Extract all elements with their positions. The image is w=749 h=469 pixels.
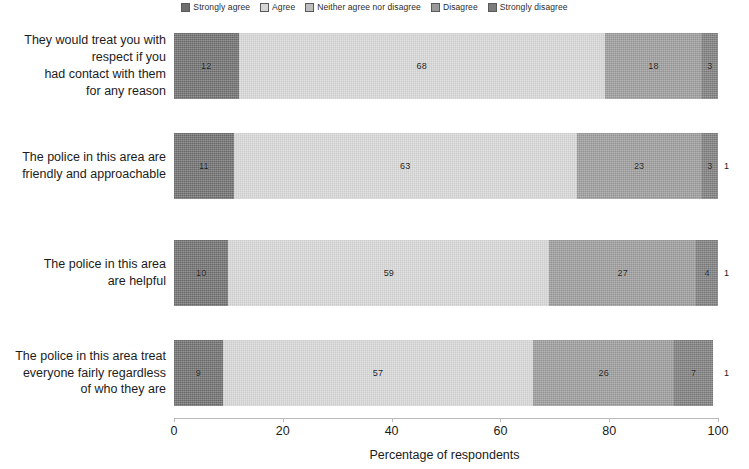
x-axis-tick-label: 60 xyxy=(493,424,507,438)
x-axis-title: Percentage of respondents xyxy=(0,448,749,462)
bar-segment: 63 xyxy=(234,133,577,199)
x-axis-tick-label: 80 xyxy=(602,424,616,438)
category-label-line: The police in this area are xyxy=(0,149,166,166)
stacked-bar-chart: Strongly agreeAgreeNeither agree nor dis… xyxy=(0,0,749,469)
bar-segment-value: 4 xyxy=(704,268,709,278)
x-axis-tick-label: 20 xyxy=(276,424,290,438)
legend-item: Strongly agree xyxy=(181,2,250,12)
bar-segment: 23 xyxy=(577,133,702,199)
x-axis-tick-label: 40 xyxy=(385,424,399,438)
bar-trailing-value: 1 xyxy=(724,268,729,278)
category-label: The police in this area arefriendly and … xyxy=(0,149,166,183)
bar-segment: 59 xyxy=(228,240,549,306)
category-label-line: of who they are xyxy=(0,381,166,398)
category-label-line: friendly and approachable xyxy=(0,166,166,183)
bar-segment-value: 27 xyxy=(618,268,628,278)
category-label: The police in this areaare helpful xyxy=(0,256,166,290)
x-axis-tick xyxy=(500,418,501,422)
bar-trailing-value: 1 xyxy=(724,161,729,171)
bar-segment-value: 26 xyxy=(599,368,609,378)
bar-segment: 10 xyxy=(174,240,228,306)
x-axis-tick xyxy=(609,418,610,422)
category-label-line: for any reason xyxy=(0,83,166,100)
bar-segment: 11 xyxy=(174,133,234,199)
bar-segment-value: 57 xyxy=(373,368,383,378)
bar-segment: 68 xyxy=(239,33,605,99)
x-axis-tick-label: 100 xyxy=(708,424,729,438)
bar-segment-value: 7 xyxy=(691,368,696,378)
category-label-line: had contact with them xyxy=(0,66,166,83)
bar-row: 1059274 xyxy=(174,240,718,306)
category-label-line: They would treat you with xyxy=(0,32,166,49)
legend-label: Strongly disagree xyxy=(500,2,568,12)
bar-segment-value: 12 xyxy=(201,61,211,71)
legend-item: Agree xyxy=(260,2,295,12)
chart-legend: Strongly agreeAgreeNeither agree nor dis… xyxy=(0,2,749,12)
bar-segment-value: 63 xyxy=(400,161,410,171)
category-label-line: respect if you xyxy=(0,49,166,66)
bar-segment: 9 xyxy=(174,340,223,406)
bar-segment: 27 xyxy=(549,240,696,306)
bar-segment: 4 xyxy=(696,240,718,306)
bar-trailing-value: 1 xyxy=(724,368,729,378)
bar-segment: 3 xyxy=(702,33,718,99)
x-axis-tick xyxy=(392,418,393,422)
bar-segment-value: 10 xyxy=(196,268,206,278)
bar-segment-value: 3 xyxy=(707,61,712,71)
plot-area: They would treat you withrespect if youh… xyxy=(174,28,718,418)
legend-label: Strongly agree xyxy=(193,2,250,12)
bar-segment-value: 11 xyxy=(199,161,209,171)
x-axis-tick-label: 0 xyxy=(171,424,178,438)
bar-segment-value: 18 xyxy=(648,61,658,71)
legend-swatch-icon xyxy=(260,3,269,12)
x-axis-tick xyxy=(283,418,284,422)
bar-segment: 12 xyxy=(174,33,239,99)
bar-segment: 26 xyxy=(533,340,674,406)
legend-item: Strongly disagree xyxy=(488,2,568,12)
bar-segment: 57 xyxy=(223,340,533,406)
bar-segment-value: 3 xyxy=(707,161,712,171)
x-axis-line xyxy=(174,418,719,419)
bar-segment-value: 23 xyxy=(634,161,644,171)
category-label-line: everyone fairly regardless xyxy=(0,365,166,382)
x-axis-title-text: Percentage of respondents xyxy=(229,448,519,462)
legend-label: Agree xyxy=(272,2,295,12)
category-label-line: are helpful xyxy=(0,273,166,290)
category-label: The police in this area treateveryone fa… xyxy=(0,348,166,398)
legend-label: Disagree xyxy=(443,2,478,12)
bar-segment-value: 59 xyxy=(384,268,394,278)
bar-segment: 3 xyxy=(702,133,718,199)
category-label: They would treat you withrespect if youh… xyxy=(0,32,166,99)
bar-segment: 7 xyxy=(674,340,712,406)
legend-swatch-icon xyxy=(305,3,314,12)
legend-item: Disagree xyxy=(431,2,478,12)
x-axis-tick xyxy=(718,418,719,422)
bar-segment-value: 68 xyxy=(417,61,427,71)
legend-swatch-icon xyxy=(431,3,440,12)
category-label-line: The police in this area xyxy=(0,256,166,273)
bar-segment-value: 9 xyxy=(196,368,201,378)
bar-row: 957267 xyxy=(174,340,718,406)
legend-swatch-icon xyxy=(488,3,497,12)
bar-segment: 18 xyxy=(605,33,702,99)
legend-item: Neither agree nor disagree xyxy=(305,2,421,12)
category-label-line: The police in this area treat xyxy=(0,348,166,365)
bar-row: 1268183 xyxy=(174,33,718,99)
legend-swatch-icon xyxy=(181,3,190,12)
legend-label: Neither agree nor disagree xyxy=(317,2,421,12)
bar-row: 1163233 xyxy=(174,133,718,199)
x-axis-tick xyxy=(174,418,175,422)
